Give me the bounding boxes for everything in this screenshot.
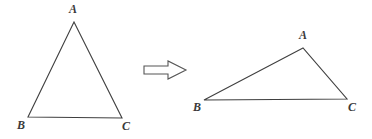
geometry-figure: [0, 0, 372, 139]
left-triangle-label-b: B: [17, 119, 25, 131]
left-triangle-label-c: C: [122, 120, 130, 132]
figure-canvas: A B C A B C: [0, 0, 372, 139]
right-triangle-label-a: A: [299, 29, 307, 41]
left-triangle-label-a: A: [69, 3, 77, 15]
right-triangle-label-c: C: [348, 101, 356, 113]
right-triangle-label-b: B: [193, 101, 201, 113]
left-triangle-outline: [28, 22, 122, 118]
right-arrow-icon: [144, 61, 186, 79]
right-triangle-outline: [204, 48, 347, 100]
